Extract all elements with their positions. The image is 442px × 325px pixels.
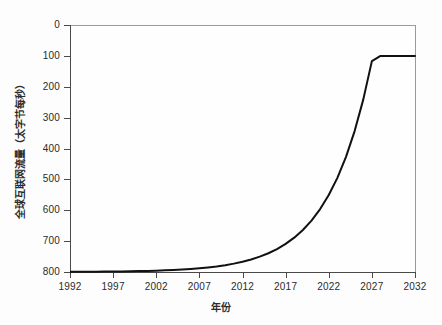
x-tick-label: 2027: [350, 281, 394, 292]
chart-container: 0100200300400500600700800 19921997200220…: [0, 0, 442, 325]
x-tick-label: 1997: [91, 281, 135, 292]
y-axis-title: 全球互联网流量（太字节每秒）: [12, 79, 27, 219]
x-tick-label: 2032: [393, 281, 437, 292]
x-tick-label: 1992: [48, 281, 92, 292]
x-tick-label: 2007: [177, 281, 221, 292]
x-axis-title: 年份: [0, 299, 442, 314]
x-tick-label: 2012: [221, 281, 265, 292]
y-axis-title-wrapper: 全球互联网流量（太字节每秒）: [9, 0, 29, 297]
x-tick-label: 2017: [264, 281, 308, 292]
x-tick-label: 2002: [134, 281, 178, 292]
data-series-line: [70, 25, 416, 273]
x-tick-label: 2022: [307, 281, 351, 292]
